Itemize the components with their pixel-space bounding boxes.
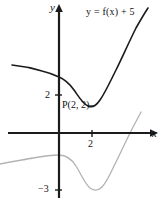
y-axis-arrowhead xyxy=(55,4,63,12)
y-axis-label: y xyxy=(50,2,55,13)
tick-label-y-minus-3: −3 xyxy=(38,184,49,194)
point-p-label: P(2, 2) xyxy=(62,100,89,110)
curve-shifted-fx-plus-5 xyxy=(12,8,148,107)
x-axis-label: x xyxy=(152,128,157,139)
tick-label-x-2: 2 xyxy=(88,139,93,149)
tick-label-y-2: 2 xyxy=(45,90,50,100)
function-graph-figure: y x y = f(x) + 5 P(2, 2) 2 2 −3 xyxy=(0,0,163,198)
curve-equation-label: y = f(x) + 5 xyxy=(86,7,135,17)
curve-original-fx xyxy=(0,112,141,190)
